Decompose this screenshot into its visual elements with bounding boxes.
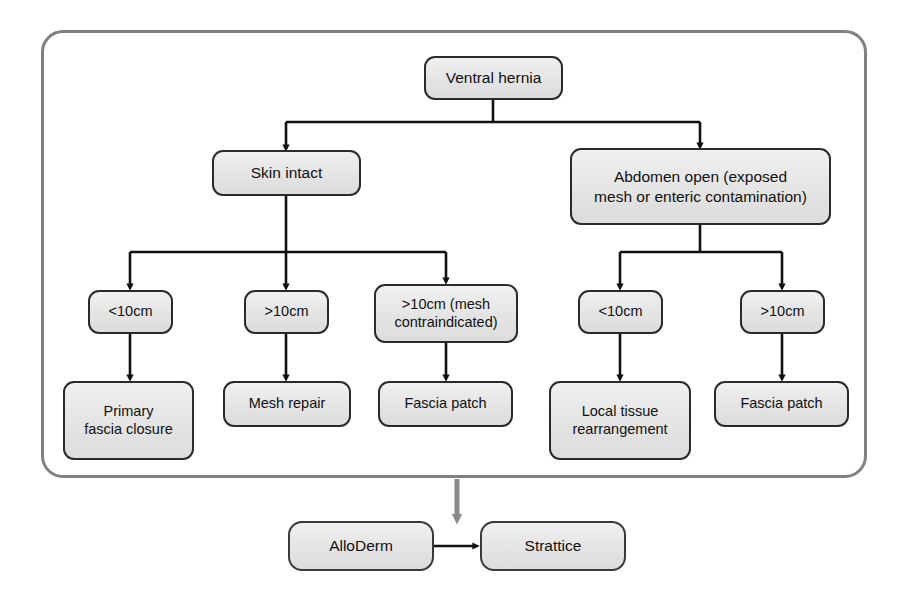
node-primary-fascia-closure[interactable]: Primary fascia closure [63, 381, 194, 460]
diagram-canvas: Ventral hernia Skin intact Abdomen open … [0, 0, 903, 601]
node-left-gt10-mesh-contraindicated[interactable]: >10cm (mesh contraindicated) [374, 284, 518, 343]
node-fascia-patch-right[interactable]: Fascia patch [714, 381, 849, 427]
node-right-lt10[interactable]: <10cm [578, 290, 663, 334]
node-ventral-hernia[interactable]: Ventral hernia [424, 56, 563, 100]
node-left-gt10[interactable]: >10cm [244, 290, 329, 334]
node-mesh-repair[interactable]: Mesh repair [223, 381, 351, 427]
node-abdomen-open[interactable]: Abdomen open (exposed mesh or enteric co… [570, 148, 831, 225]
node-strattice[interactable]: Strattice [480, 521, 626, 571]
node-fascia-patch-left[interactable]: Fascia patch [378, 381, 513, 427]
node-left-lt10[interactable]: <10cm [88, 290, 173, 334]
node-skin-intact[interactable]: Skin intact [212, 150, 361, 196]
node-right-gt10[interactable]: >10cm [740, 290, 825, 334]
node-local-tissue-rearrangement[interactable]: Local tissue rearrangement [549, 381, 691, 460]
node-alloderm[interactable]: AlloDerm [288, 521, 434, 571]
